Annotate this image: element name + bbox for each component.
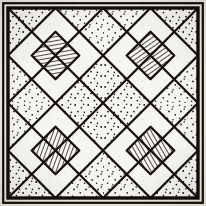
tile-grid: [8, 8, 198, 198]
tile-bottom-right: [103, 103, 198, 198]
geometric-tiling-figure: [0, 0, 206, 206]
tiling-drawing: [0, 0, 206, 206]
tile-top-right: [103, 8, 198, 103]
tile-top-left: [8, 8, 103, 103]
tile-bottom-left: [8, 103, 103, 198]
